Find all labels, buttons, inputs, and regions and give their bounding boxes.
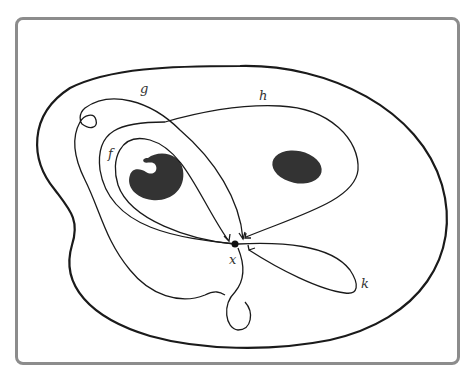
- label-x: x: [229, 252, 237, 267]
- label-f: f: [107, 146, 115, 161]
- label-k: k: [361, 276, 369, 291]
- left-hole: [129, 154, 183, 201]
- topology-diagram: x f g h k: [0, 0, 473, 377]
- label-h: h: [259, 88, 267, 103]
- right-hole: [269, 146, 325, 188]
- arrowhead-k: [248, 245, 255, 250]
- outer-boundary: [37, 66, 447, 348]
- basepoint-x: [232, 241, 239, 248]
- loop-k: [238, 243, 356, 293]
- label-g: g: [140, 81, 148, 96]
